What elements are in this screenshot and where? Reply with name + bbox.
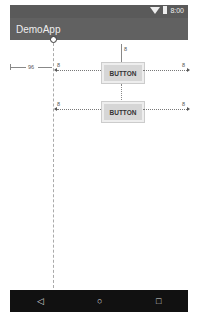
- button2-right-margin: 8: [182, 101, 185, 107]
- vertical-guideline[interactable]: [53, 38, 54, 288]
- status-time: 8:00: [170, 7, 184, 14]
- device-screen: [10, 0, 188, 312]
- button1-left-constraint: [57, 70, 101, 71]
- home-icon[interactable]: ○: [97, 296, 102, 306]
- navigation-bar: ◁ ○ □: [10, 290, 188, 312]
- button2-right-arrow: [187, 107, 190, 111]
- wifi-icon: [150, 7, 160, 14]
- app-title: DemoApp: [16, 24, 60, 35]
- button1-left-margin: 8: [57, 62, 60, 68]
- guideline-offset-label: 96: [28, 64, 34, 70]
- back-icon[interactable]: ◁: [37, 296, 44, 306]
- button1-top-margin: 8: [124, 46, 127, 52]
- recents-icon[interactable]: □: [156, 296, 161, 306]
- button-2[interactable]: BUTTON: [102, 102, 144, 122]
- guideline-anchor-handle[interactable]: [50, 36, 57, 43]
- battery-icon: [163, 6, 167, 14]
- button2-left-constraint: [57, 109, 101, 110]
- button1-top-constraint: [121, 44, 122, 62]
- button2-left-margin: 8: [57, 101, 60, 107]
- app-bar: DemoApp: [10, 18, 188, 40]
- button-1[interactable]: BUTTON: [102, 63, 144, 83]
- offset-line-left: [10, 67, 26, 68]
- button1-right-margin: 8: [182, 62, 185, 68]
- button2-right-constraint: [143, 109, 187, 110]
- status-bar: 8:00: [10, 5, 188, 18]
- button1-right-arrow: [187, 68, 190, 72]
- offset-line-right: [38, 67, 52, 68]
- vertical-chain-constraint: [121, 84, 122, 100]
- button1-right-constraint: [143, 70, 187, 71]
